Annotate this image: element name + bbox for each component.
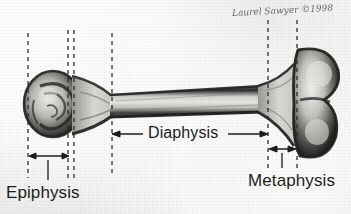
bone-anatomy-figure: Diaphysis Epiphysis Metaphysis Laurel Sa…	[0, 0, 351, 214]
label-epiphysis: Epiphysis	[6, 183, 80, 203]
epiphysis-measure	[29, 153, 69, 180]
metaphysis-measure	[269, 146, 296, 168]
distal-epiphysis	[294, 49, 339, 157]
label-diaphysis: Diaphysis	[148, 124, 218, 142]
label-metaphysis: Metaphysis	[248, 171, 335, 191]
proximal-metaphysis-flare	[72, 76, 112, 134]
diaphysis-shaft	[110, 86, 262, 117]
